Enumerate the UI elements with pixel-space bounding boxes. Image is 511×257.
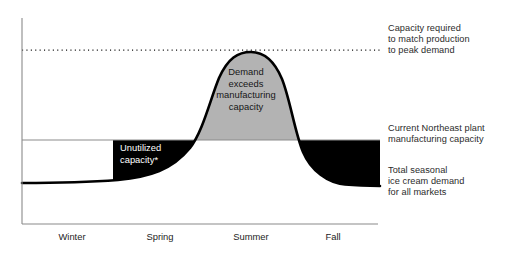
x-axis-label-winter: Winter <box>58 231 85 242</box>
x-axis-label-summer: Summer <box>233 231 268 242</box>
x-axis-label-spring: Spring <box>146 231 173 242</box>
x-axis-label-fall: Fall <box>325 231 340 242</box>
annotation-demand-exceeds-capacity: Demand exceeds manufacturing capacity <box>190 66 302 113</box>
chart-figure: Demand exceeds manufacturing capacity Un… <box>0 0 511 257</box>
label-capacity-required-peak-demand: Capacity required to match production to… <box>388 23 470 57</box>
annotation-unutilized-capacity: Unutilized capacity* <box>120 142 206 166</box>
label-total-seasonal-demand: Total seasonal ice cream demand for all … <box>388 165 464 199</box>
label-current-northeast-plant-capacity: Current Northeast plant manufacturing ca… <box>388 123 485 145</box>
